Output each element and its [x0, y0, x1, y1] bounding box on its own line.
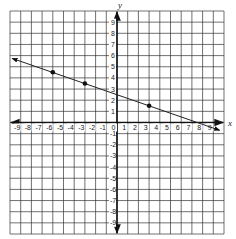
y-tick-label: -6	[110, 186, 116, 193]
x-tick-label: 1	[122, 124, 126, 131]
y-tick-label: 4	[111, 74, 115, 81]
data-point	[51, 70, 56, 75]
y-tick-label: 3	[111, 86, 115, 93]
y-tick-label: 6	[111, 52, 115, 59]
x-tick-label: 2	[133, 124, 137, 131]
x-tick-label: -4	[68, 124, 74, 131]
x-tick-label: 3	[144, 124, 148, 131]
y-tick-label: -9	[110, 219, 116, 226]
y-tick-label: -1	[110, 130, 116, 137]
x-tick-label: 6	[176, 124, 180, 131]
y-tick-label: -4	[110, 164, 116, 171]
y-tick-label: -7	[110, 197, 116, 204]
y-axis-label: y	[117, 0, 122, 10]
x-tick-label: 8	[197, 124, 201, 131]
y-tick-label: 2	[111, 97, 115, 104]
x-tick-label: -8	[25, 124, 31, 131]
y-tick-label: -8	[110, 208, 116, 215]
y-tick-label: 1	[111, 108, 115, 115]
x-tick-label: -2	[89, 124, 95, 131]
y-tick-label: -5	[110, 175, 116, 182]
coordinate-plane: -9-8-7-6-5-4-3-2-10123456789987654321-1-…	[0, 0, 236, 239]
x-tick-label: -6	[46, 124, 52, 131]
data-point	[83, 81, 88, 86]
x-tick-label: -9	[14, 124, 20, 131]
x-tick-label: -3	[78, 124, 84, 131]
y-tick-label: -3	[110, 152, 116, 159]
x-tick-label: -7	[35, 124, 41, 131]
x-tick-label: 7	[186, 124, 190, 131]
x-tick-label: -1	[100, 124, 106, 131]
x-tick-label: 5	[165, 124, 169, 131]
axes	[11, 12, 223, 233]
y-tick-label: -2	[110, 141, 116, 148]
data-point	[147, 103, 152, 108]
y-tick-label: 7	[111, 41, 115, 48]
x-tick-label: 4	[154, 124, 158, 131]
x-axis-label: x	[227, 118, 232, 128]
y-tick-label: 8	[111, 30, 115, 37]
y-tick-label: 5	[111, 63, 115, 70]
x-tick-label: -5	[57, 124, 63, 131]
y-tick-label: 9	[111, 19, 115, 26]
